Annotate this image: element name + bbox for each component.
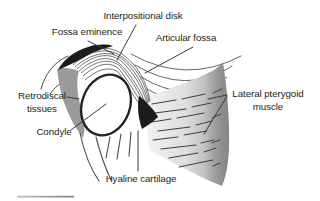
articular-fossa-label: Articular fossa [153,32,219,45]
lateral-pterygoid-muscle-label-line2: muscle [227,101,309,114]
tmj-anatomy-figure: Interpositional disk Fossa eminence Arti… [0,0,320,201]
interpositional-disk-label: Interpositional disk [100,10,186,23]
cartilage-hatch [117,134,121,159]
retrodiscal-tissues-label: Retrodiscal tissues [10,90,74,115]
lateral-pterygoid-muscle-label: Lateral pterygoid muscle [227,88,309,113]
neck-outline [80,133,99,181]
cartilage-hatch [106,137,110,158]
condyle-label: Condyle [34,126,74,139]
lateral-pterygoid-muscle-label-line1: Lateral pterygoid [227,88,309,101]
bottom-left-rule [17,196,74,198]
fossa-arc [131,54,241,70]
retrodiscal-tissues-label-line1: Retrodiscal [10,90,74,103]
fossa-eminence-label: Fossa eminence [50,26,124,39]
cartilage-hatch [129,132,131,156]
hyaline-cartilage-label: Hyaline cartilage [100,173,182,186]
lateral-pterygoid-muscle-body [147,63,230,186]
articular-fossa-leader [145,47,193,73]
retrodiscal-tissues-label-line2: tissues [10,103,74,116]
